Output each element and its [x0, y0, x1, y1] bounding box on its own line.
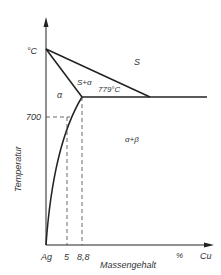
- y-axis-label: Temperatur: [13, 146, 23, 192]
- region-liquid-alpha: S+α: [77, 79, 92, 87]
- x-tick-5: 5: [64, 253, 69, 262]
- solvus-curve: [46, 97, 82, 245]
- y-tick-700: 700: [26, 113, 41, 122]
- eutectic-temperature: 779°C: [98, 86, 120, 94]
- x-axis-label: Massengehalt: [100, 261, 156, 270]
- region-liquid: S: [134, 58, 140, 67]
- region-alpha: α: [57, 91, 62, 100]
- phase-diagram-graphic: [0, 0, 221, 275]
- y-unit-label: °C: [27, 47, 37, 56]
- x-tick-8_8: 8,8: [77, 253, 90, 262]
- y-axis-arrow-icon: [44, 17, 49, 27]
- x-start-label: Ag: [41, 253, 52, 262]
- x-axis-arrow-icon: [204, 243, 214, 248]
- x-unit-label: %: [176, 252, 183, 260]
- region-alpha-beta: α+β: [125, 136, 139, 144]
- x-end-label: Cu: [200, 252, 212, 261]
- solidus-line: [46, 49, 82, 97]
